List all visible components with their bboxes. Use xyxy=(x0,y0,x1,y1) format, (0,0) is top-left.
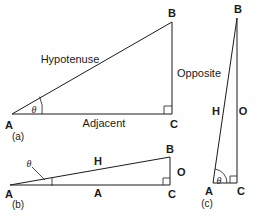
panel-b-caption: (b) xyxy=(12,199,24,210)
trigonometry-figure: A B C θ Hypotenuse Opposite Adjacent (a)… xyxy=(0,0,267,221)
panel-b-hypotenuse-line xyxy=(10,157,170,185)
panel-a-adjacent-label: Adjacent xyxy=(83,117,126,129)
panel-b-angle-theta: θ xyxy=(27,158,32,169)
panel-b-vertex-C: C xyxy=(168,188,176,200)
panel-c-opposite-label: O xyxy=(239,105,248,117)
panel-c-caption: (c) xyxy=(201,198,213,209)
panel-c-hypotenuse-label: H xyxy=(212,105,220,117)
panel-a-hypotenuse-label: Hypotenuse xyxy=(41,53,100,65)
panel-b-hypotenuse-label: H xyxy=(94,155,102,167)
panel-a-vertex-A: A xyxy=(5,119,13,131)
panel-a-opposite-label: Opposite xyxy=(177,67,221,79)
panel-a-vertex-C: C xyxy=(170,118,178,130)
panel-a-right-angle-marker xyxy=(164,106,172,114)
figure-canvas: A B C θ Hypotenuse Opposite Adjacent (a)… xyxy=(0,0,267,221)
panel-c-hypotenuse-line xyxy=(213,18,237,183)
panel-b-adjacent-label: A xyxy=(94,187,102,199)
panel-c: A B C θ H O (c) xyxy=(201,3,248,209)
panel-b-angle-leader xyxy=(32,167,45,180)
panel-c-vertex-C: C xyxy=(237,185,245,197)
panel-a-angle-theta: θ xyxy=(32,104,37,115)
panel-c-vertex-B: B xyxy=(234,3,242,15)
panel-b-opposite-label: O xyxy=(177,166,186,178)
panel-a: A B C θ Hypotenuse Opposite Adjacent (a) xyxy=(5,7,221,142)
panel-c-right-angle-marker xyxy=(230,176,237,183)
panel-a-hypotenuse-line xyxy=(12,22,172,114)
panel-c-angle-theta: θ xyxy=(217,175,222,186)
panel-b-right-angle-marker xyxy=(163,178,170,185)
panel-a-vertex-B: B xyxy=(168,7,176,19)
panel-b: A B C θ H O A (b) xyxy=(5,143,186,210)
panel-a-caption: (a) xyxy=(12,131,24,142)
panel-a-angle-arc xyxy=(40,97,43,114)
panel-c-vertex-A: A xyxy=(205,185,213,197)
panel-b-vertex-B: B xyxy=(166,143,174,155)
